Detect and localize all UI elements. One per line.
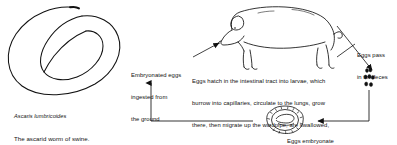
feces-label-line-1: Eggs pass — [357, 52, 388, 59]
label-eggs-embryonate: Eggs embryonate — [287, 124, 334, 145]
species-name: Ascaris lumbricoides — [14, 113, 109, 121]
label-ingestion-line-3: the ground — [131, 116, 181, 123]
specimen-caption: Ascaris lumbricoides The ascarid worm of… — [14, 98, 109, 145]
species-description-line-1: The ascarid worm of swine. — [14, 135, 109, 143]
pig-figure — [219, 7, 343, 70]
embryonate-label-line-1: Eggs embryonate — [287, 138, 334, 145]
label-ingestion-line-2: ingested from — [131, 94, 181, 101]
label-eggs-pass-in-feces: Eggs pass in the feces — [357, 38, 388, 96]
adult-worm-figure — [8, 7, 120, 95]
arrow-ingestion-to-pig — [193, 43, 219, 57]
feces-label-line-2: in the feces — [357, 74, 388, 81]
label-ingestion-line-1: Embryonated eggs — [131, 72, 181, 79]
life-cycle-line-2: burrow into capillaries, circulate to th… — [192, 100, 329, 107]
leader-lifecycle-to-pig — [337, 44, 355, 57]
label-ingestion: Embryonated eggs ingested from the groun… — [131, 58, 181, 137]
life-cycle-line-1: Eggs hatch in the intestinal tract into … — [192, 78, 329, 85]
diagram-canvas: Ascaris lumbricoides The ascarid worm of… — [0, 0, 397, 145]
